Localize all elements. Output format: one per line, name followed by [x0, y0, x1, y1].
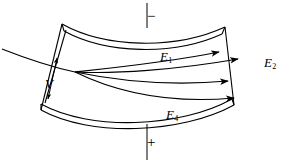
electrostatic-analyzer-diagram: E1 E2 E4 V − +	[0, 0, 287, 165]
polarity-plus-sign: +	[147, 135, 155, 150]
label-e4: E4	[166, 108, 178, 123]
label-e1: E1	[160, 50, 172, 65]
polarity-minus-sign: −	[147, 9, 155, 24]
incident-beam	[2, 49, 75, 72]
top-plate	[62, 24, 225, 49]
trajectory-2	[75, 59, 238, 72]
label-e2: E2	[264, 56, 276, 71]
exit-aperture-edge	[225, 27, 234, 105]
diagram-canvas	[0, 0, 287, 165]
trajectory-1	[75, 52, 219, 72]
bottom-plate	[41, 99, 234, 129]
label-v: V	[45, 77, 53, 92]
